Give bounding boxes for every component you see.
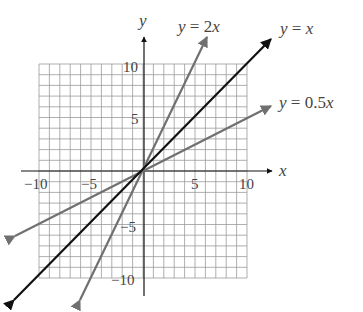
tick-x-neg5: −5 (81, 176, 97, 192)
tick-y-neg5: −5 (120, 219, 136, 235)
label-y-x: y = x (278, 19, 314, 38)
y-axis-label: y (137, 11, 147, 30)
tick-y-neg10: −10 (111, 272, 134, 288)
tick-y-5: 5 (131, 111, 139, 127)
tick-x-10: 10 (239, 176, 254, 192)
tick-x-5: 5 (191, 176, 199, 192)
line-y-x (14, 39, 271, 300)
label-y-0.5x: y = 0.5x (277, 93, 334, 112)
tick-x-neg10: −10 (24, 176, 47, 192)
tick-y-10: 10 (123, 59, 138, 75)
label-y-2x: y = 2x (176, 17, 220, 36)
line-chart: x y y = 2x y = x y = 0.5x −10 −5 5 10 10… (0, 0, 363, 312)
x-axis-label: x (278, 161, 287, 180)
